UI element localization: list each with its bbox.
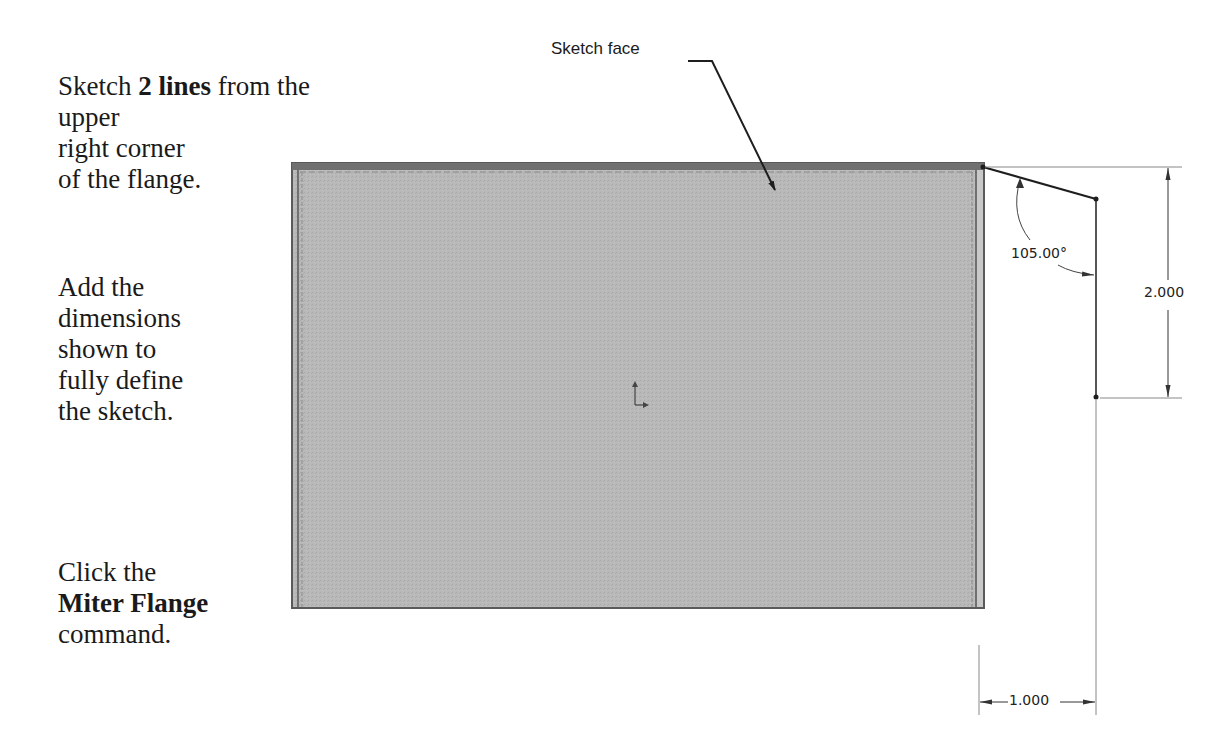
angle-dimension-value[interactable]: 105.00° xyxy=(1010,245,1068,261)
flange-plate[interactable] xyxy=(292,163,984,608)
width-dimension[interactable] xyxy=(979,400,1096,715)
sketch-lines[interactable] xyxy=(981,165,1099,400)
width-dimension-value[interactable]: 1.000 xyxy=(1008,692,1050,708)
sketch-point xyxy=(981,165,986,170)
sketch-face-label: Sketch face xyxy=(551,39,640,59)
cad-viewport xyxy=(0,0,1229,731)
sketch-face-edge xyxy=(292,163,984,170)
height-dimension[interactable] xyxy=(985,167,1182,398)
sketch-line-angled xyxy=(983,167,1096,199)
sketch-point xyxy=(1094,395,1099,400)
sketch-point xyxy=(1094,197,1099,202)
height-dimension-value[interactable]: 2.000 xyxy=(1143,284,1185,300)
